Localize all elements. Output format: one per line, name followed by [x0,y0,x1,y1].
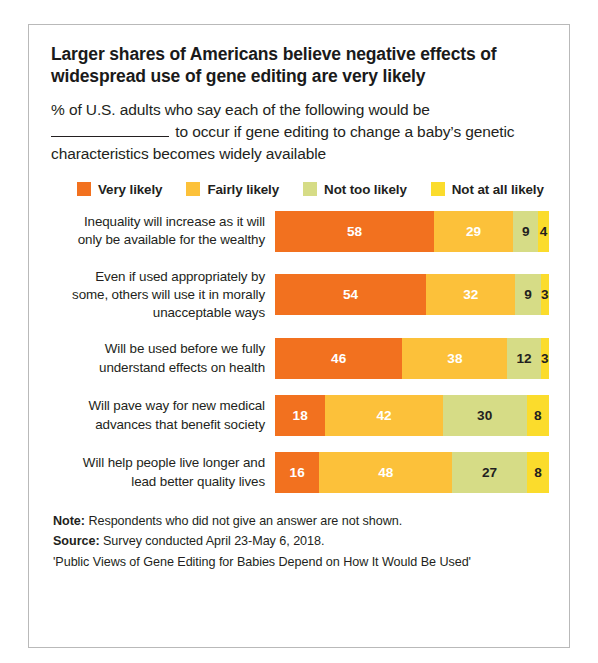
infographic-card: Larger shares of Americans believe negat… [28,24,570,648]
bar-segment-value: 3 [541,351,549,366]
bar-segment-value: 18 [293,408,308,423]
legend-item: Very likely [77,182,162,197]
chart-row: Will pave way for new medicaladvances th… [51,395,549,436]
chart-row-label-line: only be available for the wealthy [51,231,265,249]
stacked-bar: 1648278 [275,452,549,493]
bar-segment-value: 12 [517,351,532,366]
chart-row-label-line: Will be used before we fully [51,340,265,358]
bar-segment-value: 4 [540,224,548,239]
footer-source-label: Source: [53,534,100,548]
chart-row-label: Even if used appropriately bysome, other… [51,268,275,322]
bar-segment-value: 29 [466,224,481,239]
bar-segment-value: 3 [541,287,549,302]
legend-item-label: Very likely [98,182,162,197]
subtitle-blank-underline [51,123,169,137]
bar-segment: 4 [538,211,549,252]
bar-segment: 46 [275,338,402,379]
chart-row-label-line: Will pave way for new medical [51,397,265,415]
bar-segment-value: 38 [447,351,462,366]
bar-segment: 8 [527,395,549,436]
chart-footer: Note: Respondents who did not give an an… [51,511,549,572]
footer-source-text: Survey conducted April 23-May 6, 2018. [100,534,325,548]
chart-row-label-line: Will help people live longer and [51,454,265,472]
legend-swatch-icon [77,182,91,196]
bar-segment-value: 9 [524,287,532,302]
footer-note-label: Note: [53,514,85,528]
chart-row-label: Will help people live longer andlead bet… [51,454,275,490]
bar-segment: 42 [325,395,442,436]
bar-segment-value: 9 [522,224,530,239]
chart-row-label-line: lead better quality lives [51,473,265,491]
chart-row: Even if used appropriately bysome, other… [51,268,549,322]
bar-segment-value: 42 [376,408,391,423]
legend-item-label: Not too likely [324,182,407,197]
bar-segment: 32 [426,274,515,315]
bar-segment-value: 32 [463,287,478,302]
footer-source: Source: Survey conducted April 23-May 6,… [53,531,549,551]
chart-row-label: Will be used before we fullyunderstand e… [51,340,275,376]
bar-segment: 18 [275,395,325,436]
bar-segment: 9 [515,274,540,315]
bar-segment: 12 [507,338,540,379]
chart-row-label-line: understand effects on health [51,359,265,377]
bar-segment: 48 [319,452,452,493]
stacked-bar: 1842308 [275,395,549,436]
page-title: Larger shares of Americans believe negat… [51,43,549,88]
legend-item-label: Not at all likely [452,182,544,197]
bar-segment-value: 8 [534,465,542,480]
chart-row-label-line: unacceptable ways [51,304,265,322]
bar-segment: 3 [541,274,549,315]
bar-segment: 16 [275,452,319,493]
chart-row-label: Inequality will increase as it willonly … [51,213,275,249]
footer-note-text: Respondents who did not give an answer a… [85,514,402,528]
bar-segment-value: 16 [290,465,305,480]
footer-note: Note: Respondents who did not give an an… [53,511,549,531]
bar-segment-value: 27 [482,465,497,480]
subtitle-before-blank: % of U.S. adults who say each of the fol… [51,101,430,118]
chart-row-label-line: Even if used appropriately by [51,268,265,286]
chart-row: Will be used before we fullyunderstand e… [51,338,549,379]
legend-item-label: Fairly likely [207,182,279,197]
bar-segment: 9 [513,211,538,252]
bar-segment: 8 [527,452,549,493]
legend-item: Fairly likely [186,182,279,197]
bar-segment-value: 30 [477,408,492,423]
legend-item: Not too likely [303,182,407,197]
bar-segment-value: 58 [347,224,362,239]
legend-swatch-icon [186,182,200,196]
bar-segment: 27 [452,452,527,493]
chart-plot-area: Inequality will increase as it willonly … [51,211,549,493]
stacked-bar: 4638123 [275,338,549,379]
chart-row-label: Will pave way for new medicaladvances th… [51,397,275,433]
legend-item: Not at all likely [431,182,544,197]
chart-row-label-line: Inequality will increase as it will [51,213,265,231]
bar-segment-value: 8 [534,408,542,423]
chart-row: Inequality will increase as it willonly … [51,211,549,252]
stacked-bar: 543293 [275,274,549,315]
chart-row-label-line: advances that benefit society [51,416,265,434]
bar-segment: 54 [275,274,426,315]
legend-swatch-icon [303,182,317,196]
bar-segment-value: 54 [343,287,358,302]
bar-segment-value: 48 [378,465,393,480]
bar-segment: 3 [541,338,549,379]
bar-segment: 58 [275,211,434,252]
chart-row: Will help people live longer andlead bet… [51,452,549,493]
chart-row-label-line: some, others will use it in morally [51,286,265,304]
legend-swatch-icon [431,182,445,196]
bar-segment: 29 [434,211,513,252]
stacked-bar: 582994 [275,211,549,252]
bar-segment-value: 46 [331,351,346,366]
footer-report-title: 'Public Views of Gene Editing for Babies… [53,552,549,572]
bar-segment: 38 [402,338,507,379]
bar-segment: 30 [443,395,527,436]
chart-subtitle: % of U.S. adults who say each of the fol… [51,99,549,165]
chart-legend: Very likelyFairly likelyNot too likelyNo… [51,182,549,197]
